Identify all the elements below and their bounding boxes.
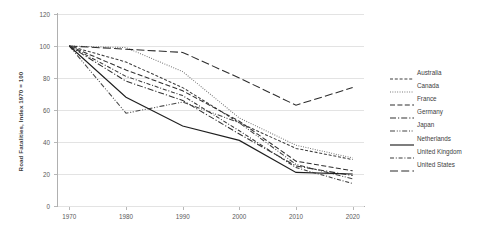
x-tick-label: 1980 — [109, 213, 143, 220]
y-tick-label: 0 — [24, 203, 50, 210]
y-tick-label: 60 — [24, 107, 50, 114]
legend-label: Netherlands — [417, 135, 451, 143]
series-line — [69, 46, 352, 184]
x-tickmark — [239, 207, 240, 210]
legend: AustraliaCanadaFranceGermanyJapanNetherl… — [390, 66, 485, 172]
y-tickmark — [54, 46, 57, 47]
y-tick-label: 120 — [24, 11, 50, 18]
legend-line-swatch — [390, 82, 414, 90]
legend-item[interactable]: Australia — [390, 66, 485, 79]
plot-area — [58, 14, 364, 206]
legend-line-swatch — [390, 148, 414, 156]
legend-line-swatch — [390, 108, 414, 116]
legend-label: Australia — [417, 69, 442, 77]
series-line — [69, 46, 352, 174]
legend-item[interactable]: Netherlands — [390, 132, 485, 145]
legend-line-swatch — [390, 95, 414, 103]
legend-item[interactable]: Canada — [390, 79, 485, 92]
legend-item[interactable]: United Kingdom — [390, 145, 485, 158]
legend-line-swatch — [390, 135, 414, 143]
road-fatalities-line-chart: Road Fatalities, Index 1970 = 100 020406… — [0, 0, 485, 243]
y-tickmark — [54, 110, 57, 111]
legend-item[interactable]: France — [390, 92, 485, 105]
y-tick-label: 80 — [24, 75, 50, 82]
gridline — [58, 206, 364, 207]
legend-line-swatch — [390, 161, 414, 169]
legend-item[interactable]: United States — [390, 158, 485, 171]
y-tickmark — [54, 206, 57, 207]
y-tick-label: 40 — [24, 139, 50, 146]
series-line — [69, 46, 352, 176]
legend-label: United States — [417, 161, 455, 169]
legend-line-swatch — [390, 121, 414, 129]
x-tick-label: 1970 — [52, 213, 86, 220]
x-tick-label: 1990 — [166, 213, 200, 220]
x-tick-label: 2000 — [222, 213, 256, 220]
series-line — [69, 46, 352, 179]
x-tick-label: 2010 — [279, 213, 313, 220]
x-tickmark — [353, 207, 354, 210]
y-tick-label: 20 — [24, 171, 50, 178]
x-tickmark — [69, 207, 70, 210]
y-tickmark — [54, 78, 57, 79]
legend-item[interactable]: Germany — [390, 106, 485, 119]
legend-label: Japan — [417, 121, 434, 129]
x-tickmark — [296, 207, 297, 210]
legend-label: France — [417, 95, 437, 103]
legend-label: Canada — [417, 82, 439, 90]
legend-label: United Kingdom — [417, 148, 462, 156]
x-tickmark — [183, 207, 184, 210]
y-tickmark — [54, 14, 57, 15]
series-lines — [58, 14, 364, 206]
series-line — [69, 46, 352, 160]
legend-line-swatch — [390, 69, 414, 77]
series-line — [69, 46, 352, 158]
legend-item[interactable]: Japan — [390, 119, 485, 132]
legend-label: Germany — [417, 108, 443, 116]
y-tick-label: 100 — [24, 43, 50, 50]
y-tickmark — [54, 142, 57, 143]
y-tickmark — [54, 174, 57, 175]
x-tick-label: 2020 — [336, 213, 370, 220]
x-tickmark — [126, 207, 127, 210]
series-line — [69, 46, 352, 171]
